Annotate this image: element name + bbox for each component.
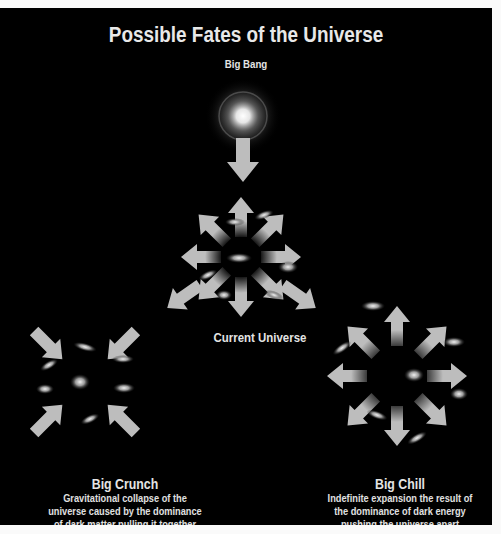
diagram-panel: Possible Fates of the Universe Big Bang …	[0, 8, 492, 525]
big-crunch-description: Gravitational collapse of the universe c…	[15, 492, 235, 525]
current-universe-icon	[181, 197, 301, 317]
diagram-artwork	[0, 8, 492, 525]
big-chill-label: Big Chill	[303, 476, 492, 492]
diagram-title: Possible Fates of the Universe	[34, 22, 457, 48]
current-universe-label: Current Universe	[198, 330, 321, 345]
description-line: Gravitational collapse of the	[15, 492, 235, 505]
description-line: pushing the universe apart	[294, 518, 492, 525]
big-chill-icon	[327, 301, 468, 447]
description-line: Indefinite expansion the result of	[294, 492, 492, 505]
big-crunch-label: Big Crunch	[24, 476, 226, 492]
description-line: the dominance of dark energy	[294, 505, 492, 518]
big-chill-description: Indefinite expansion the result of the d…	[294, 492, 492, 525]
big-crunch-icon	[25, 322, 145, 442]
description-line: of dark matter pulling it together	[15, 518, 235, 525]
big-bang-label: Big Bang	[202, 58, 290, 70]
description-line: universe caused by the dominance	[15, 505, 235, 518]
